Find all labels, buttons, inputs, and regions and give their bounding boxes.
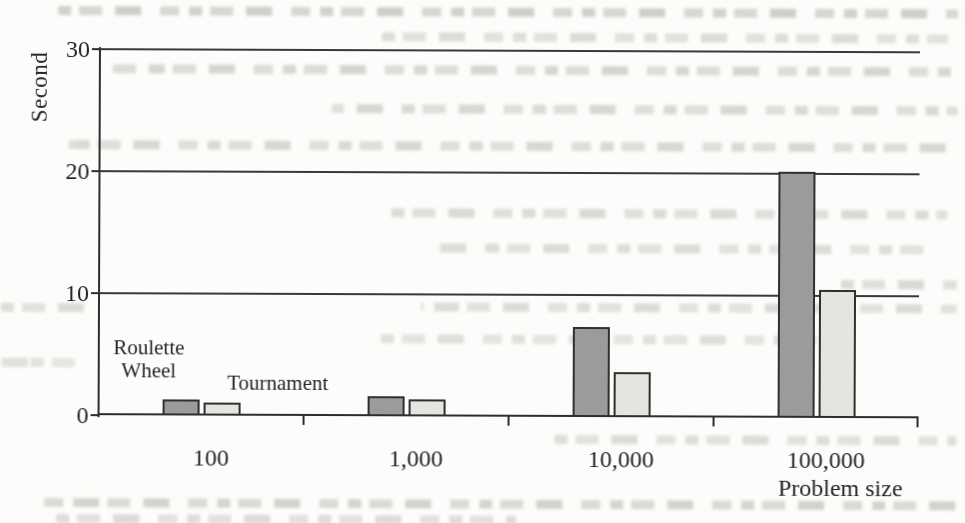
bleed-through-text (62, 140, 958, 152)
x-category-label-100: 100 (141, 444, 281, 471)
scanned-page: Second Problem size Roulette Wheel Tourn… (0, 0, 965, 523)
y-tick-10 (91, 292, 99, 294)
bleed-through-text (58, 6, 958, 18)
bleed-through-text (391, 208, 947, 219)
bleed-through-text (421, 302, 957, 313)
legend-label-tournament: Tournament (213, 372, 343, 395)
y-tick-20 (91, 170, 99, 172)
y-axis (98, 47, 101, 417)
x-axis-title: Problem size (750, 475, 930, 503)
bleed-through-text (112, 64, 958, 76)
gridline-30 (100, 48, 920, 53)
y-tick-label-10: 10 (31, 280, 89, 306)
x-tick-1 (303, 416, 305, 425)
bleed-through-text (332, 104, 958, 115)
x-tick-2 (508, 417, 510, 426)
bar-tournament (613, 372, 650, 417)
y-tick-label-30: 30 (32, 36, 90, 62)
x-axis-end-tick (917, 418, 919, 427)
y-tick-label-20: 20 (31, 158, 89, 184)
y-tick-30 (92, 48, 100, 50)
bleed-through-text (1, 358, 87, 367)
bleed-through-text (554, 435, 956, 446)
x-category-label-100000: 100,000 (756, 447, 896, 474)
bar-roulette-wheel (777, 172, 815, 418)
y-tick-0 (91, 414, 99, 416)
legend-label-roulette-wheel: Roulette Wheel (105, 336, 193, 382)
x-tick-3 (713, 418, 715, 427)
x-category-label-10000: 10,000 (551, 446, 691, 473)
bleed-through-text (56, 514, 516, 523)
y-tick-label-0: 0 (31, 402, 89, 428)
x-category-label-1000: 1,000 (346, 445, 486, 472)
bar-chart-figure: Second Problem size Roulette Wheel Tourn… (0, 0, 965, 523)
plot-area: 01020301001,00010,000100,000 (0, 0, 965, 3)
bleed-through-text (841, 280, 957, 289)
bar-tournament (818, 290, 855, 418)
bar-roulette-wheel (572, 327, 609, 417)
bleed-through-text (431, 243, 927, 254)
bleed-through-text (382, 32, 948, 43)
